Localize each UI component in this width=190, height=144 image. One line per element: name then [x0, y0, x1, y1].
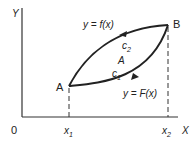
x2-tick-label: x2 — [161, 125, 171, 138]
line-integral-diagram: Y X 0 x1 x2 A B y = f(x) y = F(x) c2 c1 … — [0, 0, 190, 144]
x1-tick-label: x1 — [63, 125, 73, 138]
c2-label: c2 — [122, 40, 131, 53]
upper-curve-equation: y = f(x) — [82, 19, 114, 30]
y-axis-label: Y — [12, 8, 20, 19]
x-axis-label: X — [181, 125, 189, 136]
region-label: A — [117, 55, 125, 66]
arrow-c1-icon — [131, 73, 139, 80]
point-a-label: A — [56, 81, 64, 93]
point-b-label: B — [173, 18, 180, 30]
origin-label: 0 — [11, 124, 17, 136]
lower-curve-equation: y = F(x) — [122, 88, 157, 99]
